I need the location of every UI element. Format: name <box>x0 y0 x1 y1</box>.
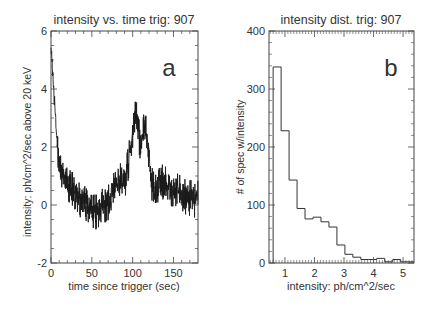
y-tick-label: 400 <box>247 25 265 37</box>
y-tick-label: -2 <box>37 257 47 269</box>
y-tick-label: 300 <box>247 83 265 95</box>
y-tick-label: 200 <box>247 141 265 153</box>
x-tick-label: 50 <box>86 267 98 279</box>
y-tick-label: 0 <box>41 199 47 211</box>
y-tick-label: 100 <box>247 199 265 211</box>
panel-a-plot-area <box>51 48 198 230</box>
panel-a-xlabel: time since trigger (sec) <box>68 280 179 292</box>
panel-a-ylabel: intensity: ph/cm^2/sec above 20 keV <box>21 67 33 237</box>
panel-a-title: intensity vs. time trig: 907 <box>53 13 194 27</box>
panel-a-frame <box>51 31 198 263</box>
x-tick-label: 4 <box>370 267 376 279</box>
intensity-line <box>51 48 198 230</box>
panel-b-label: b <box>384 54 397 81</box>
panel-a-intensity-vs-time: intensity vs. time trig: 907 050100150-2… <box>21 13 198 292</box>
panel-b-histogram <box>273 67 414 263</box>
x-tick-label: 150 <box>164 267 182 279</box>
y-tick-label: 0 <box>259 257 265 269</box>
panel-b-xlabel: intensity: ph/cm^2/sec <box>287 280 395 292</box>
panel-a-label: a <box>162 54 176 81</box>
x-tick-label: 100 <box>123 267 141 279</box>
x-tick-label: 5 <box>400 267 406 279</box>
y-tick-label: 2 <box>41 141 47 153</box>
panel-b-ylabel: # of spec w/intensity <box>234 99 246 194</box>
y-tick-label: 4 <box>41 83 47 95</box>
figure: intensity vs. time trig: 907 050100150-2… <box>0 0 436 309</box>
histogram-steps <box>273 67 414 263</box>
y-tick-label: 6 <box>41 25 47 37</box>
x-tick-label: 3 <box>341 267 347 279</box>
x-tick-label: 2 <box>311 267 317 279</box>
panel-b-intensity-distribution: intensity dist. trig: 907 12345010020030… <box>234 13 414 292</box>
x-tick-label: 0 <box>48 267 54 279</box>
x-tick-label: 1 <box>282 267 288 279</box>
panel-b-title: intensity dist. trig: 907 <box>281 13 402 27</box>
